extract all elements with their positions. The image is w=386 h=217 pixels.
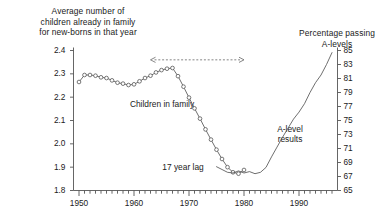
data-point-marker [94,74,98,78]
data-point-marker [176,74,180,78]
right-axis-tick-label: 73 [344,129,366,139]
left-axis-tick-label: 2.2 [44,92,66,102]
x-axis-tick-label: 1960 [119,198,149,208]
data-point-marker [132,82,136,86]
right-axis-tick-label: 75 [344,115,366,125]
x-axis-tick-label: 1970 [174,198,204,208]
data-point-marker [138,79,142,83]
right-axis-tick-label: 77 [344,101,366,111]
right-axis-tick-label: 79 [344,87,366,97]
x-axis-tick-label: 1980 [229,198,259,208]
data-point-marker [193,107,197,111]
data-point-marker [83,73,87,77]
left-axis-tick-label: 2.3 [44,68,66,78]
data-point-marker [215,148,219,152]
series-line-children-in-family [79,68,244,174]
data-point-marker [88,73,92,77]
data-point-marker [121,82,125,86]
series-group [77,53,332,176]
data-point-marker [154,71,158,75]
right-axis-tick-label: 81 [344,73,366,83]
right-axis-tick-label: 71 [344,143,366,153]
chart-figure: Average number of children already in fa… [0,0,386,217]
right-axis-tick-label: 65 [344,185,366,195]
data-point-marker [105,76,109,80]
axes-group [70,48,341,197]
right-axis-tick-label: 69 [344,157,366,167]
data-point-marker [226,165,230,169]
series-line-a-level-results [217,53,333,174]
left-axis-tick-label: 2.4 [44,45,66,55]
data-point-marker [165,67,169,71]
x-axis-tick-label: 1990 [284,198,314,208]
data-point-marker [237,172,241,176]
data-point-marker [220,157,224,161]
data-point-marker [171,66,175,70]
right-axis-tick-label: 83 [344,59,366,69]
data-point-marker [209,138,213,142]
data-point-marker [187,96,191,100]
data-point-marker [149,74,153,78]
left-axis-tick-label: 1.9 [44,162,66,172]
data-point-marker [99,75,103,79]
data-point-marker [182,85,186,89]
data-point-marker [127,83,131,87]
data-point-marker [143,76,147,80]
left-axis-tick-label: 1.8 [44,185,66,195]
data-point-marker [77,80,81,84]
data-point-marker [116,81,120,85]
data-point-marker [204,128,208,132]
left-axis-tick-label: 2.1 [44,115,66,125]
right-axis-tick-label: 85 [344,45,366,55]
data-point-marker [242,168,246,172]
data-point-marker [110,79,114,83]
data-point-marker [160,68,164,72]
right-axis-tick-label: 67 [344,171,366,181]
annotation-group [151,57,245,62]
left-axis-tick-label: 2.0 [44,138,66,148]
data-point-marker [198,117,202,121]
x-axis-tick-label: 1950 [64,198,94,208]
